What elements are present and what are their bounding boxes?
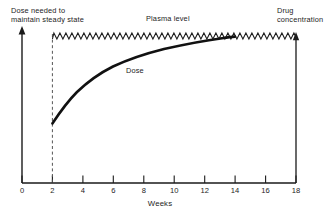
- x-tick-label-14: 14: [231, 186, 239, 195]
- x-tick-label-4: 4: [81, 186, 85, 195]
- x-axis-title: Weeks: [148, 199, 172, 208]
- x-axis: [22, 176, 296, 184]
- annotation-line-2: concentration: [277, 15, 323, 24]
- annotation-line-2: maintain steady state: [11, 15, 84, 24]
- x-tick-label-18: 18: [292, 186, 300, 195]
- annotation-line-1: Drug: [277, 6, 294, 15]
- annotation-dose-needed-steady-state: Dose needed tomaintain steady state: [11, 6, 84, 24]
- dose-curve: [52, 37, 235, 124]
- x-tick-label-6: 6: [111, 186, 115, 195]
- pharmacokinetics-chart: Dose needed tomaintain steady state Plas…: [0, 0, 333, 221]
- annotation-plasma-level: Plasma level: [146, 14, 190, 23]
- annotation-line-1: Dose needed to: [11, 6, 65, 15]
- drug-concentration-arrow: [293, 32, 299, 183]
- y-axis-arrowhead: [19, 26, 26, 35]
- x-tick-label-0: 0: [20, 186, 24, 195]
- y-axis: [19, 26, 26, 183]
- plasma-level-zigzag-line: [52, 33, 296, 39]
- x-tick-label-2: 2: [50, 186, 54, 195]
- x-tick-label-12: 12: [200, 186, 208, 195]
- annotation-drug-concentration: Drugconcentration: [277, 6, 323, 24]
- annotation-dose: Dose: [126, 66, 144, 75]
- x-tick-label-10: 10: [170, 186, 178, 195]
- x-tick-label-16: 16: [261, 186, 269, 195]
- x-tick-label-8: 8: [142, 186, 146, 195]
- x-axis-ticks: [22, 176, 296, 184]
